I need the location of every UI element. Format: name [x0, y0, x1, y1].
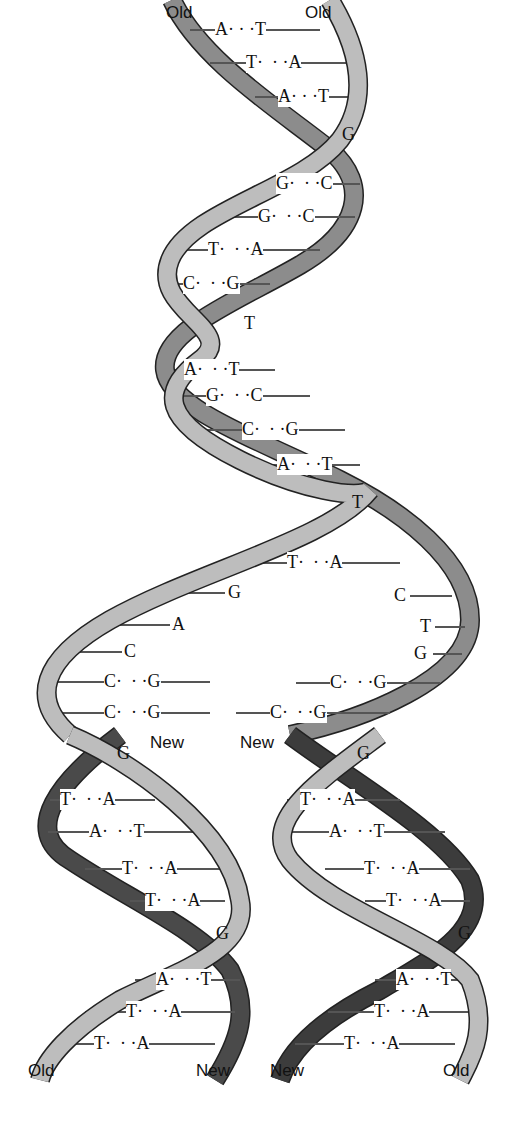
base-pair: T· · ·A: [208, 239, 263, 260]
base-single: G: [357, 743, 370, 764]
base-pair: C· · ·G: [330, 672, 387, 693]
base-single: G: [342, 124, 355, 145]
base-pair: T· · ·A: [126, 1001, 181, 1022]
base-pair: T· · ·A: [374, 1001, 429, 1022]
label-old-bottom-left: Old: [28, 1061, 54, 1081]
label-new-fork-left: New: [150, 733, 184, 753]
base-single: C: [394, 585, 406, 606]
base-pair: C· · ·G: [104, 671, 161, 692]
base-pair: G· · ·C: [206, 385, 263, 406]
label-old-top-left: Old: [166, 3, 192, 23]
base-pair: T· · ·A: [60, 789, 115, 810]
label-old-top-right: Old: [305, 3, 331, 23]
base-pair: T· · ·A: [364, 858, 419, 879]
label-new-bottom-left: New: [196, 1061, 230, 1081]
base-pair: T· · ·A: [145, 890, 200, 911]
base-single: G: [216, 923, 229, 944]
base-pair: A· · ·T: [184, 359, 239, 380]
label-new-fork-right: New: [240, 733, 274, 753]
base-single: T: [244, 313, 255, 334]
base-single: G: [228, 582, 241, 603]
base-pair: T· · ·A: [300, 789, 355, 810]
base-pair: A· · ·T: [215, 19, 266, 40]
base-pair: A· · ·T: [89, 821, 144, 842]
base-pair: A· · ·T: [396, 969, 451, 990]
base-pair: T· · ·A: [287, 552, 342, 573]
label-new-bottom-right: New: [270, 1061, 304, 1081]
base-single: G: [458, 923, 471, 944]
base-pair: T· · ·A: [94, 1033, 149, 1054]
base-pair: T· · ·A: [246, 52, 301, 73]
label-old-bottom-right: Old: [443, 1061, 469, 1081]
base-single: T: [420, 616, 431, 637]
base-single: A: [172, 614, 185, 635]
base-pair: C· · ·G: [104, 702, 161, 723]
base-single: C: [124, 641, 136, 662]
base-pair: C· · ·G: [183, 273, 240, 294]
base-pair: T· · ·A: [386, 890, 441, 911]
base-single: G: [117, 743, 130, 764]
base-single: T: [352, 492, 363, 513]
base-pair: G· · ·C: [258, 206, 315, 227]
base-pair: C· · ·G: [270, 702, 327, 723]
base-pair: A· · ·T: [329, 821, 384, 842]
base-pair: C· · ·G: [242, 419, 299, 440]
base-pair: A· · ·T: [277, 454, 332, 475]
base-pair: A· · ·T: [156, 969, 211, 990]
base-pair: A· · ·T: [278, 86, 329, 107]
base-pair: G· · ·C: [276, 173, 333, 194]
base-single: G: [414, 643, 427, 664]
base-pair: T· · ·A: [344, 1033, 399, 1054]
dna-replication-diagram: Old Old New New Old New New Old A· · ·T …: [0, 0, 517, 1129]
helix-drawing: [0, 0, 517, 1129]
base-pair: T· · ·A: [122, 858, 177, 879]
